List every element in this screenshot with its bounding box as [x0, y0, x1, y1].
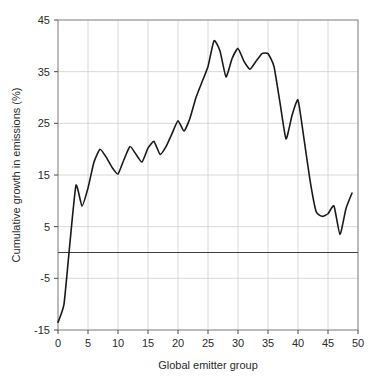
- y-axis-title: Cumulative growth in emissions (%): [10, 88, 22, 263]
- x-tick-label: 30: [232, 337, 244, 349]
- y-tick-label: -15: [34, 324, 50, 336]
- x-tick-label: 0: [55, 337, 61, 349]
- x-tick-label: 35: [262, 337, 274, 349]
- y-tick-label: -5: [40, 272, 50, 284]
- y-tick-label: 35: [38, 66, 50, 78]
- x-tick-label: 5: [85, 337, 91, 349]
- x-tick-label: 20: [172, 337, 184, 349]
- y-tick-label: 5: [44, 221, 50, 233]
- x-tick-label: 25: [202, 337, 214, 349]
- x-tick-label: 50: [352, 337, 364, 349]
- x-axis-title: Global emitter group: [158, 359, 258, 371]
- x-tick-label: 15: [142, 337, 154, 349]
- line-chart: -15-5515253545 05101520253035404550 Glob…: [0, 0, 375, 379]
- x-tick-label: 40: [292, 337, 304, 349]
- y-tick-label: 45: [38, 14, 50, 26]
- x-tick-label: 10: [112, 337, 124, 349]
- chart-background: [0, 0, 375, 379]
- y-tick-label: 25: [38, 117, 50, 129]
- x-tick-label: 45: [322, 337, 334, 349]
- y-tick-label: 15: [38, 169, 50, 181]
- chart-figure: -15-5515253545 05101520253035404550 Glob…: [0, 0, 375, 379]
